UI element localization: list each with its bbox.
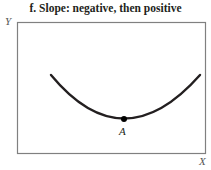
plot-area [0, 0, 211, 170]
plot-frame [18, 23, 206, 154]
point-a-marker [121, 116, 127, 122]
u-curve [51, 75, 200, 119]
point-a-label: A [119, 125, 126, 137]
